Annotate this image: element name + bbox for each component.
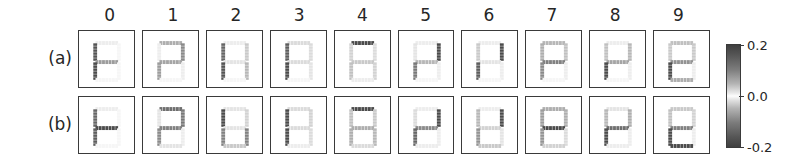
segment-map bbox=[79, 31, 134, 87]
panel-row-b bbox=[78, 96, 710, 154]
segment-map bbox=[590, 31, 645, 87]
heatmap-panel-b-6 bbox=[461, 96, 518, 154]
heatmap-panel-b-8 bbox=[589, 96, 646, 154]
column-header-8: 8 bbox=[584, 2, 647, 28]
segment-map bbox=[271, 31, 326, 87]
heatmap-panel-b-7 bbox=[525, 96, 582, 154]
heatmap-panel-a-6 bbox=[461, 30, 518, 88]
heatmap-panel-b-3 bbox=[270, 96, 327, 154]
figure-panel-grid: 0 1 2 3 4 5 6 7 8 9 (a) (b) 0.2 0.0 -0.2 bbox=[0, 0, 801, 166]
column-header-3: 3 bbox=[268, 2, 331, 28]
segment-map bbox=[335, 97, 390, 153]
heatmap-panel-b-9 bbox=[653, 96, 710, 154]
segment-map bbox=[207, 97, 262, 153]
row-label-b: (b) bbox=[18, 114, 72, 134]
segment-map bbox=[590, 97, 645, 153]
heatmap-panel-a-8 bbox=[589, 30, 646, 88]
heatmap-panel-a-9 bbox=[653, 30, 710, 88]
column-header-2: 2 bbox=[204, 2, 267, 28]
heatmap-panel-a-1 bbox=[142, 30, 199, 88]
column-header-9: 9 bbox=[647, 2, 710, 28]
colorbar-label-mid: 0.0 bbox=[747, 89, 768, 104]
colorbar-label-min: -0.2 bbox=[747, 140, 772, 155]
segment-map bbox=[399, 31, 454, 87]
heatmap-panel-b-1 bbox=[142, 96, 199, 154]
colorbar: 0.2 0.0 -0.2 bbox=[726, 44, 796, 150]
heatmap-panel-b-5 bbox=[398, 96, 455, 154]
column-header-0: 0 bbox=[78, 2, 141, 28]
column-header-7: 7 bbox=[520, 2, 583, 28]
column-header-1: 1 bbox=[141, 2, 204, 28]
colorbar-tickmark-mid bbox=[739, 96, 744, 97]
segment-map bbox=[335, 31, 390, 87]
column-header-6: 6 bbox=[457, 2, 520, 28]
segment-map bbox=[143, 31, 198, 87]
column-header-row: 0 1 2 3 4 5 6 7 8 9 bbox=[78, 2, 710, 28]
heatmap-panel-a-5 bbox=[398, 30, 455, 88]
segment-map bbox=[143, 97, 198, 153]
heatmap-panel-a-3 bbox=[270, 30, 327, 88]
heatmap-panel-b-0 bbox=[78, 96, 135, 154]
heatmap-panel-a-0 bbox=[78, 30, 135, 88]
segment-map bbox=[462, 97, 517, 153]
segment-map bbox=[654, 97, 709, 153]
segment-map bbox=[654, 31, 709, 87]
segment-map bbox=[526, 31, 581, 87]
heatmap-panel-b-2 bbox=[206, 96, 263, 154]
column-header-5: 5 bbox=[394, 2, 457, 28]
segment-map bbox=[462, 31, 517, 87]
colorbar-tickmark-max bbox=[739, 45, 744, 46]
heatmap-panel-b-4 bbox=[334, 96, 391, 154]
colorbar-tickmark-min bbox=[739, 147, 744, 148]
segment-map bbox=[79, 97, 134, 153]
heatmap-panel-a-7 bbox=[525, 30, 582, 88]
row-label-a: (a) bbox=[18, 48, 72, 68]
panel-row-a bbox=[78, 30, 710, 88]
column-header-4: 4 bbox=[331, 2, 394, 28]
heatmap-panel-a-2 bbox=[206, 30, 263, 88]
segment-map bbox=[399, 97, 454, 153]
segment-map bbox=[526, 97, 581, 153]
segment-map bbox=[207, 31, 262, 87]
heatmap-panel-a-4 bbox=[334, 30, 391, 88]
colorbar-label-max: 0.2 bbox=[747, 38, 768, 53]
segment-map bbox=[271, 97, 326, 153]
